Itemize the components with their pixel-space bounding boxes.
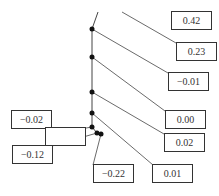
- data-point: [90, 111, 95, 116]
- value-label-box: 0.42: [171, 11, 212, 30]
- leader-line: [92, 92, 164, 134]
- leader-line: [92, 29, 168, 73]
- value-label-box: 0.02: [164, 133, 205, 152]
- data-point: [90, 125, 95, 130]
- leader-line: [122, 12, 176, 43]
- data-point: [90, 90, 95, 95]
- value-label-box: 0.23: [176, 42, 217, 61]
- data-point: [90, 27, 95, 32]
- value-label-box: −0.22: [93, 164, 134, 183]
- leader-line: [92, 113, 153, 165]
- value-label-box: [45, 127, 86, 146]
- value-label-box: 0.01: [152, 164, 193, 183]
- leader-line: [93, 134, 101, 165]
- value-label-box: −0.12: [12, 145, 53, 164]
- value-label-box: 0.00: [165, 110, 206, 129]
- data-point: [99, 132, 104, 137]
- data-point: [90, 55, 95, 60]
- value-label-box: −0.01: [168, 72, 209, 91]
